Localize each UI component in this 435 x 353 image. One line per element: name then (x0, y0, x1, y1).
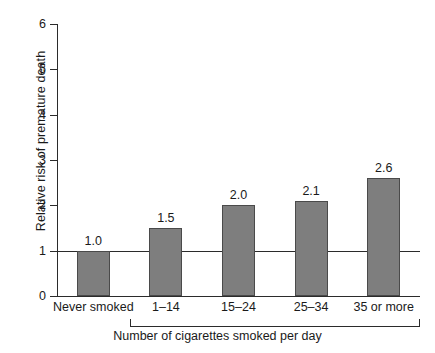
y-axis-line (57, 24, 58, 297)
y-axis-tick (50, 160, 57, 161)
bar-value-label: 1.0 (63, 235, 123, 248)
y-axis-tick (50, 69, 57, 70)
y-axis-tick (50, 251, 57, 252)
bar-value-label: 2.0 (209, 189, 269, 202)
bar-value-label: 1.5 (136, 212, 196, 225)
bar (222, 205, 255, 296)
y-axis-tick (50, 296, 57, 297)
bar-value-label: 2.1 (281, 185, 341, 198)
bar (367, 178, 400, 296)
y-axis-tick (50, 24, 57, 25)
bar (295, 201, 328, 296)
y-axis-tick-label: 4 (26, 109, 46, 122)
bar-value-label: 2.6 (354, 162, 414, 175)
y-axis-tick-label: 5 (26, 63, 46, 76)
y-axis-tick (50, 205, 57, 206)
y-axis-tick-label: 6 (26, 18, 46, 31)
x-axis-category-label: 35 or more (329, 301, 435, 314)
bar-chart: Relative risk of premature death 0123456… (0, 0, 435, 353)
y-axis-tick-label: 2 (26, 199, 46, 212)
y-axis-tick-label: 1 (26, 245, 46, 258)
x-axis-line (57, 296, 420, 297)
y-axis-tick-label: 3 (26, 154, 46, 167)
y-axis-title: Relative risk of premature death (34, 16, 48, 266)
group-bracket (130, 319, 420, 327)
x-axis-title: Number of cigarettes smoked per day (0, 330, 435, 343)
y-axis-tick (50, 115, 57, 116)
bar (77, 251, 110, 296)
bar (149, 228, 182, 296)
